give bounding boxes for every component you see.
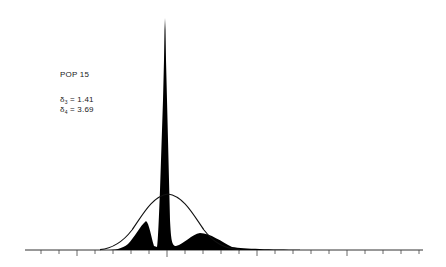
skewness-label: δ3 = 1.41: [60, 95, 94, 105]
distribution-chart: [0, 0, 446, 267]
kurtosis-value: = 3.69: [68, 105, 94, 114]
population-label: POP 15: [60, 70, 89, 79]
observed-distribution-area: [105, 18, 300, 250]
x-axis-ticks: [41, 250, 419, 257]
skewness-value: = 1.41: [68, 95, 94, 104]
kurtosis-label: δ4 = 3.69: [60, 105, 94, 115]
